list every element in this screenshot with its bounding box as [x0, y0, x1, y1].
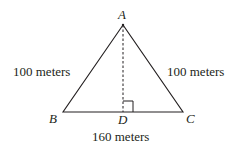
vertex-a-dot [122, 24, 124, 26]
side-ab-length: 100 meters [13, 64, 70, 79]
vertex-b-label: B [49, 111, 57, 126]
vertex-c-label: C [186, 111, 195, 126]
vertex-d-label: D [117, 112, 128, 127]
right-angle-marker [123, 101, 133, 112]
triangle-diagram: A B C D 100 meters 100 meters 160 meters [0, 0, 244, 147]
vertex-a-label: A [117, 7, 126, 22]
side-bc-length: 160 meters [92, 129, 149, 144]
side-ac-length: 100 meters [167, 64, 224, 79]
